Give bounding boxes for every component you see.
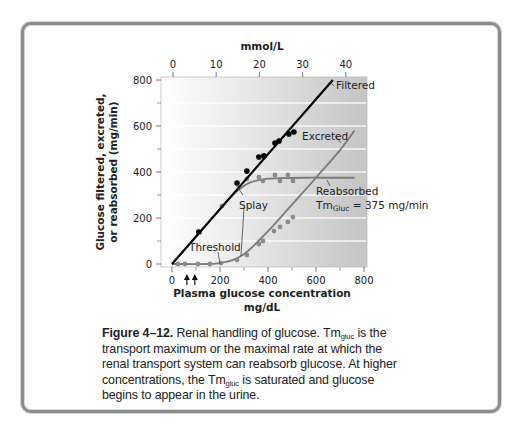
data-point <box>256 175 261 180</box>
filtered-label: Filtered <box>336 79 375 91</box>
data-point <box>196 262 201 267</box>
threshold-label: Threshold <box>188 241 241 253</box>
y-axis-title-line2: or reabsorbed (mg/min) <box>107 101 119 242</box>
x-tick-label: 600 <box>306 275 325 286</box>
data-point <box>276 138 282 144</box>
x-axis-title-line1: Plasma glucose concentration <box>173 287 351 299</box>
data-point <box>244 168 250 174</box>
data-point <box>272 229 277 234</box>
x2-tick-label: 20 <box>253 59 266 70</box>
y-tick-label: 600 <box>133 121 152 132</box>
data-point <box>273 173 278 178</box>
excreted-label: Excreted <box>302 130 348 142</box>
x-tick-label: 400 <box>258 275 277 286</box>
caption-sub-2: gluc <box>226 379 239 388</box>
data-point <box>278 225 283 230</box>
figure-caption: Figure 4–12. Renal handling of glucose. … <box>102 326 412 404</box>
x2-tick-label: 0 <box>170 59 176 70</box>
data-point <box>286 220 291 225</box>
tm-label: TmGluc = 375 mg/min <box>315 199 429 213</box>
data-point <box>261 239 266 244</box>
data-point <box>291 179 296 184</box>
x-axis-title-line2: mg/dL <box>244 301 281 313</box>
y-tick-label: 0 <box>146 259 152 270</box>
data-point <box>176 262 181 267</box>
data-point <box>208 262 213 267</box>
x2-tick-label: 10 <box>210 59 223 70</box>
data-point <box>196 229 202 235</box>
y-tick-label: 800 <box>133 75 152 86</box>
data-point <box>286 131 292 137</box>
splay-label: Splay <box>239 199 268 211</box>
x2-tick-label: 30 <box>296 59 309 70</box>
y-axis-title-line1: Glucose filtered, excreted, <box>94 93 106 250</box>
figure-label: Figure 4–12. <box>102 326 173 340</box>
data-point <box>256 154 262 160</box>
x-tick-label: 200 <box>210 275 229 286</box>
x2-axis-mmol: 010203040 <box>170 59 352 77</box>
x2-tick-label: 40 <box>339 59 352 70</box>
reabsorbed-label: Reabsorbed <box>316 185 378 197</box>
data-point <box>256 242 261 247</box>
data-point <box>235 258 240 263</box>
data-point <box>261 153 267 159</box>
y-tick-label: 200 <box>133 213 152 224</box>
data-point <box>286 173 291 178</box>
caption-text-1: Renal handling of glucose. Tm <box>173 326 341 340</box>
data-point <box>261 179 266 184</box>
y-tick-label: 400 <box>133 167 152 178</box>
y-axis: 0200400600800 <box>133 75 161 270</box>
data-point <box>234 180 240 186</box>
caption-sub-1: gluc <box>341 332 354 341</box>
data-point <box>183 262 188 267</box>
data-point <box>244 253 249 258</box>
data-point <box>291 129 297 135</box>
x-tick-label: 0 <box>169 275 175 286</box>
x-tick-label: 800 <box>354 275 373 286</box>
data-point <box>278 179 283 184</box>
x-axis: 0200400600800 <box>169 267 374 286</box>
threshold-arrows <box>184 274 198 285</box>
data-point <box>291 215 296 220</box>
x2-axis-title: mmol/L <box>240 40 284 52</box>
